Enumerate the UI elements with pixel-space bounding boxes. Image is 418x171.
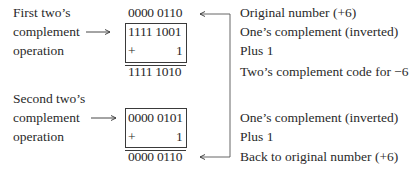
annotation-ones-complement-1: One’s complement (inverted)	[240, 24, 398, 40]
second-op-plus-value: 1	[176, 129, 182, 145]
first-op-plus-sign: +	[128, 43, 135, 59]
first-op-inverted: 1111 1001	[128, 24, 181, 40]
annotation-back-to-original: Back to original number (+6)	[240, 149, 398, 165]
second-op-inverted: 0000 0101	[128, 110, 183, 126]
annotation-ones-complement-2: One’s complement (inverted)	[240, 110, 398, 126]
second-op-result: 0000 0110	[128, 149, 182, 165]
annotation-plus-1-a: Plus 1	[240, 43, 273, 59]
first-op-result: 1111 1010	[128, 64, 181, 80]
annotation-twos-complement: Two’s complement code for −6	[240, 64, 409, 80]
annotation-plus-1-b: Plus 1	[240, 129, 273, 145]
annotation-original: Original number (+6)	[240, 5, 356, 21]
second-op-plus-sign: +	[128, 129, 135, 145]
first-op-plus-value: 1	[176, 43, 182, 59]
first-op-original: 0000 0110	[128, 5, 182, 21]
